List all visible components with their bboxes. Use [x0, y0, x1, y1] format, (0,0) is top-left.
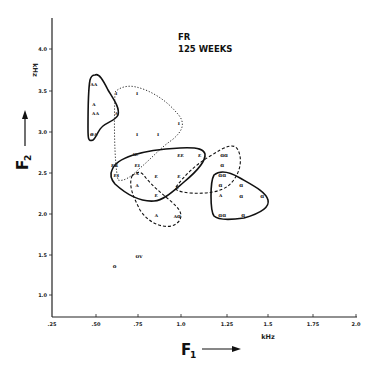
data-point: ʌʌ [90, 81, 98, 87]
data-point: ʌ [219, 192, 223, 198]
data-point: ɑɑ [220, 152, 228, 158]
data-point: ɑ [260, 193, 264, 199]
data-point: ɑ [241, 212, 245, 218]
data-point: ɛ [198, 152, 202, 158]
data-point: ɛɛ [177, 152, 184, 158]
data-point: ʌ [135, 182, 139, 188]
data-point: ɪ [157, 131, 159, 137]
y-tick-label: 3.5 [38, 88, 47, 94]
y-axis-title: F 2 [14, 110, 33, 170]
region-dotted-i [114, 86, 182, 180]
svg-text:2: 2 [23, 155, 33, 161]
data-point: ɛ [155, 192, 159, 198]
data-point: ʌʌ [92, 110, 100, 116]
data-point: ɑ [239, 193, 243, 199]
x-tick-label: .50 [92, 321, 101, 327]
data-point: ɪ [136, 90, 138, 96]
data-point: ɪɛ [133, 151, 139, 157]
data-point: ɪ [136, 131, 138, 137]
data-point: ʌɑ [173, 213, 181, 219]
chart-title-line2: 125 WEEKS [178, 44, 232, 54]
svg-text:1: 1 [190, 350, 196, 360]
data-point: ʌ [115, 110, 119, 116]
data-point: ɛɪ [114, 172, 119, 178]
data-point: ɛɪ [134, 162, 139, 168]
x-tick-label: 1.75 [307, 321, 320, 327]
data-point: ɑɑ [218, 172, 226, 178]
x-unit-label: kHz [261, 333, 275, 341]
arrow-up-icon [22, 110, 28, 119]
data-point: ɑɑ [218, 212, 226, 218]
arrow-right-icon [232, 346, 241, 352]
y-tick-label: 2.5 [38, 170, 47, 176]
data-point: ɑ [239, 182, 243, 188]
data-point: ʌ [135, 170, 139, 176]
data-point: ɛ [177, 173, 181, 179]
x-tick-label: 1.25 [221, 321, 234, 327]
x-axis-title: F 1 [181, 341, 241, 360]
data-point: øʌ [90, 131, 98, 137]
x-tick-label: 1.0 [177, 321, 186, 327]
y-tick-label: 3.0 [38, 129, 47, 135]
data-point: ɪ [178, 120, 180, 126]
data-point: ɛ [155, 173, 159, 179]
x-tick-label: 1.5 [264, 321, 273, 327]
data-point: ɪ [115, 90, 117, 96]
x-tick-label: .25 [48, 321, 57, 327]
data-point: ʌ [154, 212, 158, 218]
y-tick-label: 4.0 [38, 46, 47, 52]
vowel-regions [88, 75, 268, 227]
x-tick-label: .75 [134, 321, 143, 327]
data-points: ʌʌʌʌʌøʌʌɪɪɪɪɪɪɛɛɛɛɛʀɛɪɛɪɛɛɛɛʌʌʌʌɑɑɑɑɑɑɑɑ… [90, 81, 264, 269]
data-point: ɑ [220, 162, 224, 168]
data-point: ɛʀ [111, 162, 118, 168]
formant-chart: 1.0 1.5 2.0 2.5 3.0 3.5 4.0 .25 .50 .75 … [0, 0, 376, 373]
y-tick-label: 2.0 [38, 211, 47, 217]
y-tick-label: 1.0 [38, 292, 47, 298]
data-point: o [113, 263, 117, 269]
y-unit-label: kHz [31, 63, 39, 77]
data-point: ɑ [219, 182, 223, 188]
x-tick-label: 2.0 [352, 321, 361, 327]
data-point: ʌ [92, 101, 96, 107]
chart-title-line1: FR [178, 32, 191, 42]
data-point: ʊv [135, 253, 143, 259]
y-tick-label: 1.5 [38, 252, 47, 258]
region-dashed-upper-a [176, 146, 241, 193]
